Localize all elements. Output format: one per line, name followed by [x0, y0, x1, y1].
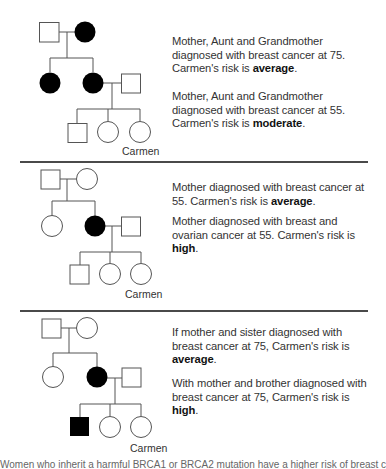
risk-level: moderate	[253, 117, 303, 129]
pedigree-panel-2: Carmen Mother diagnosed with breast canc…	[0, 155, 386, 310]
pedigree-diagram-1: Carmen	[0, 0, 170, 160]
scenario-3a: If mother and sister diagnosed with brea…	[172, 326, 372, 367]
grandmother-circle	[77, 318, 98, 339]
aunt-circle-affected	[40, 73, 61, 94]
pedigree-panel-3: Carmen If mother and sister diagnosed wi…	[0, 310, 386, 460]
mother-circle-affected	[83, 73, 104, 94]
grandmother-circle	[77, 169, 98, 190]
pedigree-panel-1: Carmen Mother, Aunt and Grandmother diag…	[0, 0, 386, 160]
carmen-label: Carmen	[125, 288, 163, 300]
punct: .	[195, 404, 198, 416]
punct: .	[313, 195, 316, 207]
father-square	[122, 217, 141, 236]
father-square	[122, 74, 141, 93]
risk-level: high	[172, 242, 195, 254]
grandmother-circle-affected	[75, 22, 96, 43]
pedigree-diagram-3: Carmen	[0, 310, 170, 460]
sister-circle	[100, 417, 121, 438]
punct: .	[195, 242, 198, 254]
mother-circle-affected	[85, 216, 106, 237]
scenario-2b: Mother diagnosed with breast and ovarian…	[172, 215, 372, 256]
scenario-text: With mother and brother diagnosed with b…	[172, 377, 367, 403]
scenario-1a: Mother, Aunt and Grandmother diagnosed w…	[172, 35, 372, 76]
grandfather-square	[41, 170, 60, 189]
grandfather-square	[42, 319, 61, 338]
risk-level: average	[253, 62, 295, 74]
sister-circle	[98, 122, 119, 143]
aunt-circle	[43, 367, 64, 388]
brother-square-affected	[70, 417, 89, 436]
carmen-circle	[131, 264, 152, 285]
aunt-circle	[42, 216, 63, 237]
sister-circle	[100, 264, 121, 285]
punct: .	[302, 117, 305, 129]
scenario-2a: Mother diagnosed with breast cancer at 5…	[172, 181, 372, 208]
carmen-circle	[130, 122, 151, 143]
risk-level: average	[271, 195, 313, 207]
brother-square	[68, 124, 87, 143]
risk-level: average	[172, 353, 214, 365]
pedigree-diagram-2: Carmen	[0, 155, 170, 310]
brother-square	[70, 265, 89, 284]
mother-circle-affected	[87, 367, 108, 388]
footer-caption-cutoff: Women who inherit a harmful BRCA1 or BRC…	[0, 459, 386, 469]
scenario-text: Mother diagnosed with breast and ovarian…	[172, 215, 355, 241]
risk-level: high	[172, 404, 195, 416]
grandfather-square	[40, 23, 60, 43]
scenario-1b: Mother, Aunt and Grandmother diagnosed w…	[172, 90, 372, 131]
punct: .	[294, 62, 297, 74]
father-square	[122, 368, 141, 387]
scenario-text: If mother and sister diagnosed with brea…	[172, 326, 350, 352]
punct: .	[214, 353, 217, 365]
scenario-text: Mother diagnosed with breast cancer at 5…	[172, 181, 364, 207]
carmen-circle	[131, 417, 152, 438]
scenario-3b: With mother and brother diagnosed with b…	[172, 377, 372, 418]
carmen-label: Carmen	[130, 442, 168, 454]
